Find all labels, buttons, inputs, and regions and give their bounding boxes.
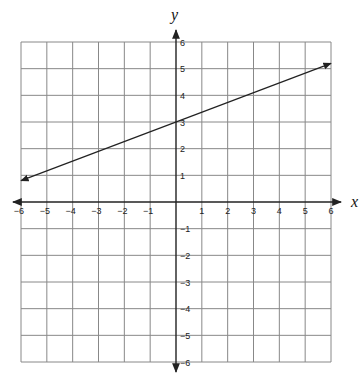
x-tick-label: 2	[225, 206, 230, 216]
x-tick-label: −1	[143, 206, 153, 216]
x-tick-label: −2	[117, 206, 127, 216]
x-axis-label: x	[350, 193, 358, 210]
y-tick-label: 6	[180, 38, 185, 48]
x-tick-label: 4	[277, 206, 282, 216]
y-tick-label: −1	[180, 224, 190, 234]
y-tick-label: −3	[180, 278, 190, 288]
x-tick-label: 5	[303, 206, 308, 216]
x-tick-label: 6	[328, 206, 333, 216]
x-tick-label: −4	[66, 206, 76, 216]
y-tick-label: −2	[180, 251, 190, 261]
y-tick-label: 4	[180, 91, 185, 101]
x-tick-label: 1	[199, 206, 204, 216]
y-tick-label: 2	[180, 144, 185, 154]
y-tick-label: 5	[180, 64, 185, 74]
x-tick-label: −6	[14, 206, 24, 216]
x-tick-label: −3	[91, 206, 101, 216]
y-tick-label: 1	[180, 171, 185, 181]
coordinate-plane: −6−5−4−3−2−1123456654321−1−2−3−4−5−6xy	[0, 0, 363, 382]
x-tick-label: 3	[251, 206, 256, 216]
y-tick-label: −4	[180, 304, 190, 314]
x-tick-label: −5	[40, 206, 50, 216]
y-tick-label: −5	[180, 331, 190, 341]
y-tick-label: −6	[180, 358, 190, 368]
y-axis-label: y	[169, 6, 179, 24]
